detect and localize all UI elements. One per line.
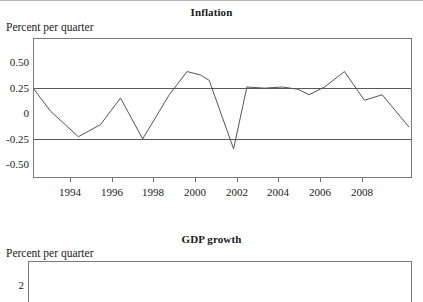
- x-tick-mark-3: [195, 178, 196, 182]
- inflation-plot-area: [33, 38, 412, 178]
- inflation-plot-svg: [34, 39, 411, 177]
- x-tick-label-1994: 1994: [50, 186, 90, 198]
- inflation-chart-panel: Inflation Percent per quarter 0.50 0.25 …: [0, 0, 423, 220]
- x-tick-label-2006: 2006: [300, 186, 340, 198]
- x-tick-label-2008: 2008: [342, 186, 382, 198]
- x-tick-label-2004: 2004: [258, 186, 298, 198]
- x-tick-label-1998: 1998: [133, 186, 173, 198]
- x-tick-mark-6: [320, 178, 321, 182]
- x-tick-mark-2: [153, 178, 154, 182]
- gdp-y-axis-caption: Percent per quarter: [6, 247, 93, 259]
- inflation-y-tick-labels: 0.50 0.25 0 -0.25 -0.50: [0, 38, 29, 178]
- x-tick-label-2002: 2002: [217, 186, 257, 198]
- inflation-y-axis-caption: Percent per quarter: [6, 21, 93, 33]
- gdp-y-tick-label-2: 2: [19, 279, 25, 291]
- x-tick-mark-5: [278, 178, 279, 182]
- gdp-plot-area: [28, 261, 412, 302]
- x-tick-mark-1: [112, 178, 113, 182]
- inflation-series-line: [34, 72, 409, 149]
- gdp-growth-chart-panel: GDP growth Percent per quarter 2: [0, 228, 423, 302]
- gdp-y-tick-labels: 2: [0, 261, 24, 302]
- y-tick-label-3: -0.25: [6, 133, 29, 145]
- y-tick-label-2: 0: [24, 107, 30, 119]
- x-tick-label-2000: 2000: [175, 186, 215, 198]
- y-tick-label-0: 0.50: [10, 56, 29, 68]
- x-tick-mark-4: [237, 178, 238, 182]
- x-tick-mark-7: [362, 178, 363, 182]
- x-tick-label-1996: 1996: [92, 186, 132, 198]
- gdp-chart-title: GDP growth: [0, 233, 423, 245]
- inflation-chart-title: Inflation: [0, 6, 423, 18]
- y-tick-label-4: -0.50: [6, 158, 29, 170]
- y-tick-label-1: 0.25: [10, 82, 29, 94]
- x-tick-mark-0: [70, 178, 71, 182]
